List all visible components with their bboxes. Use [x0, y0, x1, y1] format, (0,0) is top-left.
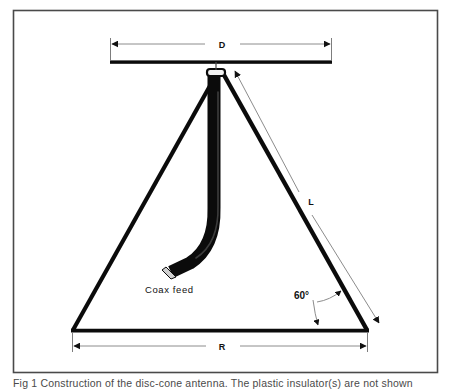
r-label: R — [219, 342, 226, 352]
disc-reflector — [110, 60, 332, 63]
figure-caption-text: Fig 1 Construction of the disc-cone ante… — [13, 377, 413, 389]
antenna-diagram: D L — [0, 0, 455, 389]
figure-border — [14, 11, 438, 373]
angle-label-60: 60° — [294, 290, 309, 301]
figure-container: D L — [0, 0, 455, 389]
figure-caption: Fig 1 Construction of the disc-cone ante… — [13, 377, 443, 389]
d-label: D — [219, 40, 226, 50]
insulator-collar — [207, 69, 225, 76]
coax-feed-label: Coax feed — [145, 284, 194, 295]
l-label: L — [308, 197, 314, 207]
